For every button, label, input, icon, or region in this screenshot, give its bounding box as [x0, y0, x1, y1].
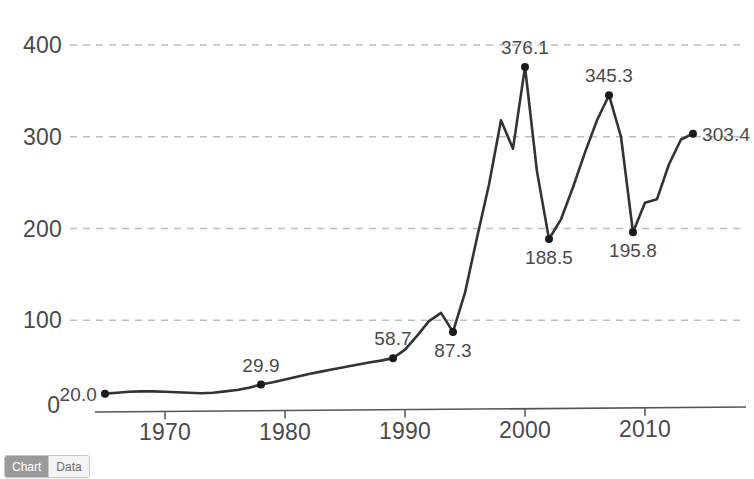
- axis-baseline: [95, 407, 746, 412]
- y-tick-label-0: 0: [47, 392, 60, 418]
- data-point-58.7: [389, 354, 397, 362]
- y-axis-labels: 4003002001000: [23, 32, 62, 418]
- tab-chart[interactable]: Chart: [5, 456, 49, 477]
- chart-container: 4003002001000 19701980199020002010 20.02…: [0, 0, 754, 479]
- data-label-376.1: 376.1: [501, 37, 549, 58]
- data-label-87.3: 87.3: [434, 340, 471, 361]
- data-label-29.9: 29.9: [242, 355, 279, 376]
- data-point-376.1: [521, 63, 529, 71]
- y-tick-label-200: 200: [23, 216, 62, 242]
- gridlines: [70, 45, 746, 320]
- x-tick-label-1980: 1980: [259, 419, 311, 445]
- x-tick-label-1970: 1970: [139, 419, 191, 445]
- y-tick-label-100: 100: [23, 307, 62, 333]
- data-label-188.5: 188.5: [525, 247, 573, 268]
- tab-data-label: Data: [56, 461, 81, 473]
- data-label-20.0: 20.0: [60, 384, 97, 405]
- data-label-195.8: 195.8: [609, 240, 657, 261]
- data-label-58.7: 58.7: [374, 328, 411, 349]
- data-point-195.8: [629, 228, 637, 236]
- line-chart: 4003002001000 19701980199020002010 20.02…: [0, 0, 754, 479]
- x-tick-label-2010: 2010: [619, 416, 671, 442]
- data-label-303.4: 303.4: [702, 124, 750, 145]
- tab-chart-label: Chart: [12, 461, 41, 473]
- data-point-303.4: [689, 130, 697, 138]
- x-tick-label-2000: 2000: [499, 417, 551, 443]
- x-tick-label-1990: 1990: [379, 418, 431, 444]
- view-tab-strip[interactable]: Chart Data: [4, 455, 90, 478]
- x-axis-labels: 19701980199020002010: [139, 416, 671, 446]
- data-point-345.3: [605, 91, 613, 99]
- data-point-20.0: [101, 390, 109, 398]
- data-label-345.3: 345.3: [585, 65, 633, 86]
- y-tick-label-400: 400: [23, 32, 62, 58]
- data-point-87.3: [449, 328, 457, 336]
- tab-data[interactable]: Data: [49, 456, 88, 477]
- data-point-29.9: [257, 381, 265, 389]
- y-tick-label-300: 300: [23, 124, 62, 150]
- data-point-188.5: [545, 235, 553, 243]
